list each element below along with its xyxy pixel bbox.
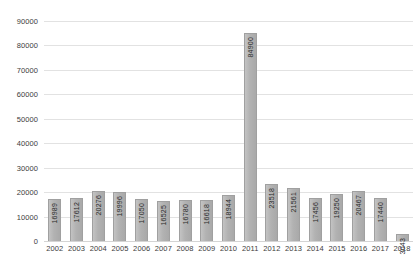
x-axis-tick-label: 2002 — [44, 244, 66, 266]
bar[interactable]: 21561 — [287, 188, 300, 241]
y-axis-tick-label: 80000 — [17, 41, 38, 50]
y-axis-tick-label: 60000 — [17, 90, 38, 99]
bar-slot: 19996 — [109, 21, 131, 241]
bar-value-label: 19250 — [333, 198, 340, 218]
x-axis-tick-label: 2014 — [304, 244, 326, 266]
y-axis-tick-label: 90000 — [17, 17, 38, 26]
x-axis-tick-label: 2009 — [196, 244, 218, 266]
bar-slot: 17440 — [370, 21, 392, 241]
bar[interactable]: 19250 — [330, 194, 343, 241]
bar-series: 1698917612202761999617050165251678016618… — [44, 21, 413, 241]
bar-value-label: 18944 — [225, 199, 232, 219]
bar-slot: 84900 — [239, 21, 261, 241]
bar-slot: 23518 — [261, 21, 283, 241]
bar[interactable]: 20276 — [92, 191, 105, 241]
bar[interactable]: 17440 — [374, 198, 387, 241]
bar-value-label: 16618 — [203, 204, 210, 224]
x-axis-tick-label: 2006 — [131, 244, 153, 266]
bar-value-label: 21561 — [290, 192, 297, 212]
bar[interactable]: 20467 — [352, 191, 365, 241]
x-axis-tick-label: 2018 — [391, 244, 413, 266]
bar-slot: 17050 — [131, 21, 153, 241]
bar-value-label: 17456 — [312, 202, 319, 222]
x-axis-tick-label: 2013 — [283, 244, 305, 266]
bar[interactable]: 17612 — [70, 198, 83, 241]
x-axis-tick-label: 2005 — [109, 244, 131, 266]
bar-value-label: 84900 — [247, 37, 254, 57]
x-axis-tick-label: 2003 — [66, 244, 88, 266]
bar[interactable]: 16525 — [157, 201, 170, 241]
bar-slot: 17612 — [66, 21, 88, 241]
bar-value-label: 16780 — [182, 204, 189, 224]
bar[interactable]: 84900 — [244, 33, 257, 241]
x-axis-tick-label: 2007 — [153, 244, 175, 266]
bar-slot: 16989 — [44, 21, 66, 241]
bar[interactable]: 3043 — [396, 234, 409, 241]
bar[interactable]: 16618 — [200, 200, 213, 241]
bar-slot: 16780 — [174, 21, 196, 241]
bar-value-label: 17440 — [377, 202, 384, 222]
bar-slot: 17456 — [304, 21, 326, 241]
bar[interactable]: 23518 — [265, 184, 278, 241]
bar-slot: 20467 — [348, 21, 370, 241]
y-axis-tick-label: 30000 — [17, 163, 38, 172]
bar[interactable]: 16989 — [48, 199, 61, 241]
y-axis-tick-label: 50000 — [17, 114, 38, 123]
x-axis-tick-label: 2011 — [239, 244, 261, 266]
plot-area: 1698917612202761999617050165251678016618… — [44, 21, 413, 241]
x-axis-tick-label: 2004 — [87, 244, 109, 266]
x-axis-tick-label: 2008 — [174, 244, 196, 266]
bar-chart: 0100002000030000400005000060000700008000… — [0, 0, 419, 274]
y-axis-tick-label: 0 — [34, 237, 38, 246]
bar[interactable]: 17050 — [135, 199, 148, 241]
bar[interactable]: 18944 — [222, 195, 235, 241]
x-axis-tick-label: 2010 — [218, 244, 240, 266]
gridline — [44, 241, 413, 242]
y-axis-tick-label: 70000 — [17, 65, 38, 74]
x-axis: 2002200320042005200620072008200920102011… — [44, 244, 413, 266]
bar-slot: 16618 — [196, 21, 218, 241]
bar-value-label: 19996 — [116, 196, 123, 216]
bar-value-label: 23518 — [268, 188, 275, 208]
bar-slot: 21561 — [283, 21, 305, 241]
x-axis-tick-label: 2016 — [348, 244, 370, 266]
bar-value-label: 20467 — [355, 195, 362, 215]
y-axis: 0100002000030000400005000060000700008000… — [0, 21, 44, 241]
x-axis-tick-label: 2012 — [261, 244, 283, 266]
bar-value-label: 16525 — [160, 205, 167, 225]
x-axis-tick-label: 2015 — [326, 244, 348, 266]
bar-slot: 3043 — [391, 21, 413, 241]
bar-value-label: 17612 — [73, 202, 80, 222]
bar-slot: 19250 — [326, 21, 348, 241]
x-axis-tick-label: 2017 — [370, 244, 392, 266]
bar-value-label: 16989 — [51, 203, 58, 223]
bar-slot: 16525 — [153, 21, 175, 241]
y-axis-tick-label: 20000 — [17, 188, 38, 197]
bar-value-label: 20276 — [95, 195, 102, 215]
bar[interactable]: 19996 — [113, 192, 126, 241]
bar[interactable]: 17456 — [309, 198, 322, 241]
bar-slot: 20276 — [87, 21, 109, 241]
y-axis-tick-label: 10000 — [17, 212, 38, 221]
bar-slot: 18944 — [218, 21, 240, 241]
bar[interactable]: 16780 — [179, 200, 192, 241]
bar-value-label: 17050 — [138, 203, 145, 223]
y-axis-tick-label: 40000 — [17, 139, 38, 148]
